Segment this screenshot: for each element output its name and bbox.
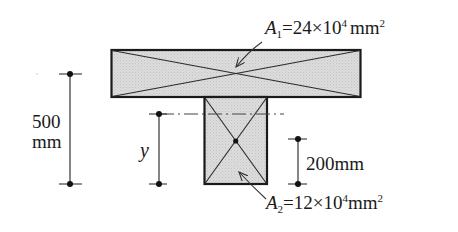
flange-area-label: A1=24×104mm2 [265,18,385,37]
flange-area-value: =24 [282,17,312,38]
web-unit-exponent: 2 [378,192,384,204]
web-area-value: =12 [283,192,313,213]
flange-times-sign: × [312,17,323,38]
total-height-unit: mm [32,132,62,152]
total-height-value: 500 [32,112,62,132]
dimension-web-centroid-height [288,136,307,187]
flange-area-a1 [112,50,361,97]
t-section-diagram [0,0,458,232]
flange-unit-exponent: 2 [380,17,386,29]
web-base: 10 [324,192,343,213]
web-centroid-point [233,138,238,143]
flange-area-symbol: A [265,17,277,38]
web-area-a2 [205,97,268,184]
total-height-label: 500 mm [32,112,62,152]
flange-base: 10 [323,17,342,38]
web-centroid-height-label: 200mm [306,154,364,174]
dimension-centroid-y [149,111,167,187]
web-times-sign: × [313,192,324,213]
flange-unit: mm [350,17,380,38]
scan-speck [36,73,37,74]
web-area-symbol: A [266,192,278,213]
web-area-label: A2=12×104mm2 [266,193,383,212]
web-unit: mm [348,192,378,213]
dimension-total-height [59,71,82,187]
flange-exponent: 4 [342,17,348,29]
centroid-distance-label: y [140,140,149,160]
